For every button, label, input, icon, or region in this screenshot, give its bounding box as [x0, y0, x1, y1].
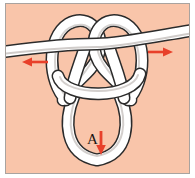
loop-label-a: A	[87, 132, 98, 147]
right-pull-arrow	[148, 48, 173, 57]
knot-illustration	[6, 4, 189, 173]
figure-root: A	[0, 0, 195, 178]
rope-bottom-bight	[68, 96, 126, 160]
left-pull-arrow	[22, 58, 48, 67]
diagram-frame: A	[5, 3, 190, 174]
